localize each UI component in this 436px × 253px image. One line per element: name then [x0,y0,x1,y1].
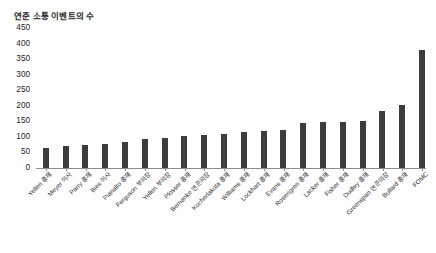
bar-slot [254,28,274,168]
x-axis-tick-mark [383,168,384,171]
bar[interactable] [142,139,148,168]
x-axis-tick-mark [422,168,423,171]
x-axis-tick-mark [284,168,285,171]
bar-slot [293,28,313,168]
bar[interactable] [340,122,346,167]
x-axis-tick-mark [343,168,344,171]
bar[interactable] [43,148,49,167]
bar-slot [36,28,56,168]
bar-slot [155,28,175,168]
x-axis-tick-mark [185,168,186,171]
y-axis-tick-label: 150 [0,117,30,125]
bar-slot [373,28,393,168]
y-axis-tick-label: 0 [0,163,30,171]
bar-slot [214,28,234,168]
bar-slot [234,28,254,168]
x-axis-tick-mark [66,168,67,171]
y-axis-tick-labels: 450400350300250200150100500 [0,0,32,253]
bar[interactable] [221,134,227,167]
bar[interactable] [102,144,108,168]
y-axis-tick-label: 100 [0,132,30,140]
y-axis-tick-label: 450 [0,24,30,32]
bar-slot [56,28,76,168]
y-axis-tick-label: 50 [0,148,30,156]
bar-slot [412,28,432,168]
bar-slot [115,28,135,168]
bar-slot [194,28,214,168]
bar[interactable] [122,142,128,168]
y-axis-tick-label: 300 [0,70,30,78]
x-axis-tick-mark [204,168,205,171]
bar-slot [392,28,412,168]
x-axis-tick-labels: Yellen 총재Meyer 이사Parry 총재Bies 이사Pianalto… [36,171,432,231]
y-axis-tick-label: 200 [0,101,30,109]
x-axis-tick-label: FOMC [412,171,430,189]
x-axis-tick-mark [323,168,324,171]
bar[interactable] [320,122,326,167]
x-axis-tick-mark [46,168,47,171]
bar-slot [353,28,373,168]
bar[interactable] [261,131,267,167]
bar[interactable] [379,111,385,167]
bar[interactable] [162,138,168,168]
bar-slot [175,28,195,168]
bar-slot [135,28,155,168]
x-axis-tick-mark [165,168,166,171]
bar-slot [274,28,294,168]
chart-container: 연준 소통 이벤트의 수 450400350300250200150100500… [0,0,436,253]
bar[interactable] [241,132,247,167]
bar[interactable] [300,123,306,167]
x-axis-tick-mark [402,168,403,171]
x-axis-line [36,168,426,169]
bar-series [36,28,432,168]
y-axis-tick-label: 250 [0,86,30,94]
bar-slot [76,28,96,168]
x-axis-tick-mark [303,168,304,171]
x-axis-tick-mark [105,168,106,171]
x-axis-tick-mark [264,168,265,171]
bar[interactable] [201,135,207,168]
bar[interactable] [63,146,69,168]
bar-slot [333,28,353,168]
bar[interactable] [82,145,88,168]
x-axis-tick-mark [363,168,364,171]
x-axis-tick-mark [86,168,87,171]
bar-slot [313,28,333,168]
bar-slot [95,28,115,168]
x-axis-tick-mark [224,168,225,171]
x-axis-tick-mark [244,168,245,171]
x-axis-tick-mark [145,168,146,171]
bar[interactable] [419,50,425,167]
bar[interactable] [181,136,187,168]
bar[interactable] [360,121,366,168]
y-axis-tick-label: 350 [0,55,30,63]
bar[interactable] [280,130,286,168]
y-axis-tick-label: 400 [0,39,30,47]
bar[interactable] [399,105,405,168]
x-axis-tick-mark [125,168,126,171]
